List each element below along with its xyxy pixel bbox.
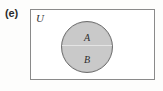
set-divider-line xyxy=(62,45,112,46)
set-label-b: B xyxy=(79,54,95,65)
set-circle-shaded xyxy=(61,21,113,73)
set-label-a: A xyxy=(79,32,95,43)
universal-set-label: U xyxy=(36,12,44,24)
venn-diagram-figure: (e) U A B xyxy=(0,0,163,91)
part-label: (e) xyxy=(5,6,18,20)
